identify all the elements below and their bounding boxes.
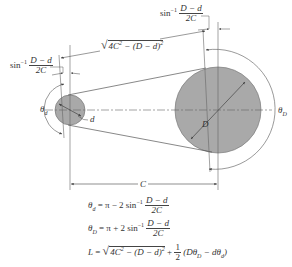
eq-rhs: = π − 2 sin [95,200,136,210]
eq-tail-open: (Dθ [181,247,197,257]
radicand-b: − (D − d) [124,247,162,257]
tangent-length-label: √4C2 − (D − d)2 [101,39,163,51]
eq-den: 2C [145,206,169,215]
right-angle-dim-l [198,29,209,30]
sin-text: sin [10,60,21,70]
left-angle-label: sin−1 D − d2C [10,56,53,75]
theta-subscript: D [282,111,286,117]
fraction: D − d2C [179,4,203,23]
equation-belt-length: L = √4C2 − (D − d)2 + 12 (DθD − dθd) [88,243,227,263]
inverse-exp: −1 [171,7,177,13]
radicand: 4C2 − (D − d)2 [108,40,164,51]
fraction-denominator: 2C [179,14,203,23]
eq-den: 2C [146,229,170,238]
left-angle-dim-l [52,73,63,75]
left-angle-dim-r [71,73,80,74]
radicand-b: − (D − d) [122,41,160,51]
right-angle-label: sin−1 D − d2C [160,4,203,23]
eq-rhs: = π + 2 sin [97,223,138,233]
eq-fraction: D − d2C [145,196,169,216]
theta-d-label: θd [40,105,47,114]
tangent-length-dim-right [160,31,205,39]
radicand-a: 4C [109,41,120,51]
center-distance-label: C [140,180,146,189]
theta-subscript: d [44,110,47,116]
sqrt-icon: √ [101,38,108,52]
tangent-length-dim-left [61,51,100,58]
eq-equals: = [93,247,103,257]
eq-tail-close: ) [224,247,227,257]
eq-tail-mid: − dθ [201,247,221,257]
sin-text: sin [160,8,171,18]
small-diameter-label: d [90,115,95,124]
eq-fraction: D − d2C [146,219,170,239]
large-diameter-label: D [202,120,209,129]
eq-exp: −1 [136,199,142,205]
radicand-b-exp: 2 [160,40,163,46]
theta-D-label: θD [278,106,287,115]
eq-exp: −1 [138,222,144,228]
eq-plus: + [165,247,175,257]
equation-theta-D: θD = π + 2 sin−1 D − d2C [88,219,170,239]
radicand: 4C2 − (D − d)2 [109,246,165,257]
inverse-exp: −1 [21,59,27,65]
radicand-a: 4C [110,247,121,257]
fraction: D − d2C [29,56,53,75]
equation-theta-d: θd = π − 2 sin−1 D − d2C [88,196,169,216]
fraction-denominator: 2C [29,66,53,75]
